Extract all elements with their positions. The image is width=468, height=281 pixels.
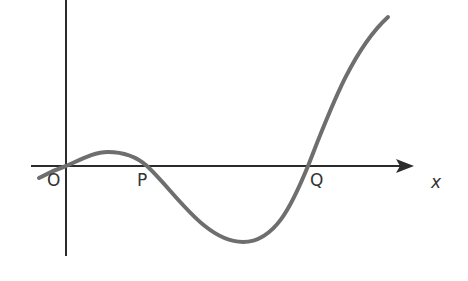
function-graph [0, 0, 468, 281]
origin-label: O [47, 172, 60, 189]
x-axis-label: x [431, 174, 441, 191]
curve [39, 17, 388, 242]
point-q-label: Q [310, 172, 323, 189]
point-p-label: P [137, 172, 147, 189]
